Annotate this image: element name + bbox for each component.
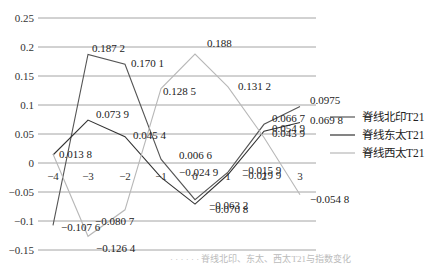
data-label: 0.0975	[310, 94, 341, 106]
data-label: −0.080 7	[95, 215, 135, 227]
data-label: 0.045 4	[133, 129, 167, 141]
y-tick-label: 0.2	[20, 41, 34, 53]
x-tick-label: −4	[47, 170, 59, 182]
legend-label: 脊线北印T21	[362, 110, 425, 123]
data-label: −0.054 8	[310, 193, 350, 205]
y-tick-label: 0.05	[15, 128, 35, 140]
data-label: 0.187 2	[92, 42, 125, 54]
y-tick-label: 0.1	[20, 99, 34, 111]
legend: 脊线北印T21脊线东太T21脊线西太T21	[330, 110, 425, 159]
data-label: −0.126 4	[96, 242, 136, 254]
y-tick-label: −0.15	[9, 244, 35, 256]
data-label: 0.073 9	[96, 108, 130, 120]
y-tick-label: −0.1	[14, 215, 34, 227]
y-tick-label: 0.25	[15, 12, 35, 24]
data-label: −0.019 9	[242, 169, 282, 181]
legend-label: 脊线东太T21	[362, 128, 425, 141]
y-tick-label: 0	[29, 157, 35, 169]
y-tick-label: −0.05	[9, 186, 35, 198]
line-chart: 0.250.20.150.10.050−0.05−0.1−0.15 −4−3−2…	[0, 0, 432, 265]
legend-label: 脊线西太T21	[362, 146, 425, 159]
data-label: −0.070 8	[209, 203, 249, 215]
x-tick-label: 3	[297, 170, 303, 182]
data-label: 0.006 6	[179, 149, 213, 161]
data-label: 0.131 2	[238, 80, 271, 92]
data-label: 0.043 9	[272, 127, 306, 139]
data-label: −0.024 9	[179, 166, 219, 178]
figure-caption: · · · · · · 脊线北印、东太、西太T21与指数变化	[170, 253, 351, 264]
data-label: 0.069 8	[310, 114, 344, 126]
y-axis-tick-labels: 0.250.20.150.10.050−0.05−0.1−0.15	[9, 12, 35, 256]
data-labels: −0.107 60.187 20.170 10.006 6−0.063 2−0.…	[59, 37, 350, 254]
y-tick-label: 0.15	[15, 70, 35, 82]
series-line-1	[53, 120, 300, 204]
data-label: 0.188	[207, 37, 232, 49]
data-label: 0.013 8	[59, 148, 93, 160]
data-label: 0.128 5	[163, 85, 197, 97]
x-tick-label: −3	[82, 170, 94, 182]
x-tick-label: −2	[119, 170, 131, 182]
data-label: 0.170 1	[131, 57, 164, 69]
